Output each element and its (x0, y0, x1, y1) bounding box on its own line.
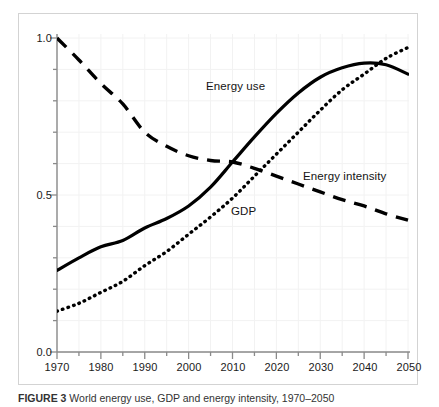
figure-caption-prefix: FIGURE 3 (18, 392, 66, 404)
x-tick-label-1980: 1980 (81, 361, 121, 373)
x-tick-label-1990: 1990 (125, 361, 165, 373)
figure-container: 1.0 0.5 0.0 1970 1980 1990 2000 2010 202… (0, 0, 439, 407)
series-label-gdp: GDP (231, 205, 256, 217)
chart-plot (0, 0, 439, 407)
x-tick-label-2030: 2030 (301, 361, 341, 373)
series-label-energy-use: Energy use (206, 80, 265, 92)
y-tick-label-2: 0.5 (18, 189, 52, 201)
x-tick-label-2000: 2000 (169, 361, 209, 373)
x-tick-label-1970: 1970 (37, 361, 77, 373)
x-tick-label-2020: 2020 (257, 361, 297, 373)
series-label-energy-intensity: Energy intensity (303, 170, 386, 182)
x-tick-label-2040: 2040 (345, 361, 385, 373)
x-tick-label-2050: 2050 (389, 361, 429, 373)
figure-caption: FIGURE 3 World energy use, GDP and energ… (18, 392, 428, 404)
y-tick-label-1: 1.0 (18, 32, 52, 44)
y-tick-label-3: 0.0 (18, 346, 52, 358)
figure-caption-text: World energy use, GDP and energy intensi… (69, 392, 334, 404)
x-tick-label-2010: 2010 (213, 361, 253, 373)
